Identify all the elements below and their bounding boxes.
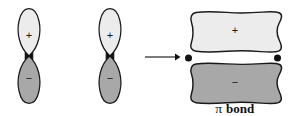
- p-orbital-right-minus-label: −: [107, 72, 113, 84]
- p-orbital-left-minus-label: −: [26, 72, 32, 84]
- p-orbital-right-minus-sign: −: [107, 72, 113, 84]
- pi-bond-left-nucleus-dot: [185, 55, 192, 62]
- pi-bond-plus-label: +: [232, 24, 238, 36]
- pi-bond-right-nucleus-dot: [274, 55, 281, 62]
- pi-bond-formation-diagram: + − + − + − π: [0, 0, 297, 116]
- p-orbital-right-plus-label: +: [107, 29, 113, 41]
- pi-bond-caption: π bond: [215, 101, 255, 116]
- p-orbital-right-plus-sign: +: [107, 29, 113, 41]
- pi-bond-molecular-orbital: + − π bond: [185, 12, 282, 116]
- p-orbital-left-plus-sign: +: [26, 29, 32, 41]
- pi-bond-minus-label: −: [232, 76, 238, 88]
- p-orbital-left-plus-label: +: [26, 29, 32, 41]
- p-orbital-left-minus-sign: −: [26, 72, 32, 84]
- pi-bond-caption-symbol: π: [215, 101, 222, 116]
- pi-bond-caption-word: bond: [226, 101, 255, 116]
